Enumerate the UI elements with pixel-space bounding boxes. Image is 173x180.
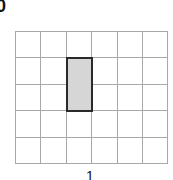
grid-line	[40, 31, 41, 164]
grid-line	[15, 137, 168, 138]
highlighted-rectangle	[66, 57, 93, 112]
grid-line	[15, 31, 168, 32]
grid-line	[117, 31, 118, 164]
grid-line	[142, 31, 143, 164]
grid	[15, 31, 168, 164]
figure-label-bottom: 1	[86, 168, 94, 180]
grid-line	[15, 163, 168, 164]
grid-line	[15, 31, 16, 164]
figure-label-top: 0	[0, 0, 6, 17]
grid-line	[167, 31, 168, 164]
